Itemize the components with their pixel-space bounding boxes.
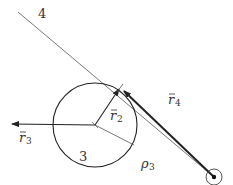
link4-label: 4 (38, 6, 46, 21)
r3-label: r 3 (19, 130, 32, 146)
link3-label: 3 (79, 149, 87, 164)
svg-text:2: 2 (117, 114, 123, 124)
diagram-canvas: 4 3 r 2 r 3 r 4 ρ 3 (0, 0, 233, 185)
svg-text:ρ: ρ (140, 156, 149, 171)
svg-text:3: 3 (26, 136, 32, 146)
link4-line (18, 12, 214, 177)
svg-text:4: 4 (175, 98, 181, 108)
svg-text:3: 3 (149, 162, 155, 172)
svg-text:r: r (110, 108, 117, 123)
ground-pin-dot (212, 175, 216, 179)
svg-text:r: r (19, 130, 26, 145)
r3-vector (12, 124, 95, 125)
r4-label: r 4 (168, 92, 181, 108)
rho3-line (95, 125, 134, 145)
svg-text:r: r (168, 92, 175, 107)
rho3-label: ρ 3 (140, 156, 155, 172)
r2-label: r 2 (110, 108, 123, 124)
